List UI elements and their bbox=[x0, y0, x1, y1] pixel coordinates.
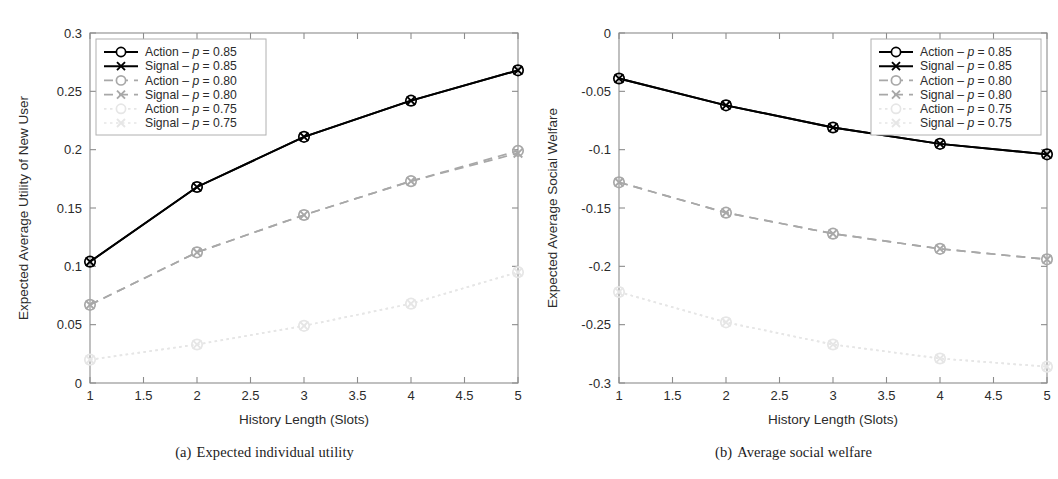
y-tick-label: 0.05 bbox=[57, 317, 82, 332]
marker-cross bbox=[300, 211, 309, 220]
y-tick-label: -0.25 bbox=[581, 317, 611, 332]
x-tick-label: 3 bbox=[829, 388, 836, 403]
series-line bbox=[90, 153, 518, 305]
legend-label: Action – p = 0.75 bbox=[920, 102, 1012, 116]
y-tick-label: -0.1 bbox=[589, 142, 611, 157]
marker-cross bbox=[193, 183, 202, 192]
caption-a-label: (a) bbox=[175, 444, 191, 460]
series-line bbox=[90, 272, 518, 360]
x-tick-label: 2 bbox=[193, 388, 200, 403]
legend-marker-circle bbox=[116, 47, 125, 56]
legend-label: Signal – p = 0.75 bbox=[145, 116, 237, 130]
x-tick-label: 2.5 bbox=[241, 388, 259, 403]
x-tick-label: 4 bbox=[407, 388, 414, 403]
marker-cross bbox=[193, 340, 202, 349]
legend-marker-circle bbox=[116, 104, 125, 113]
legend-label: Action – p = 0.75 bbox=[145, 102, 237, 116]
legend-marker-circle bbox=[891, 47, 900, 56]
x-tick-label: 4.5 bbox=[984, 388, 1002, 403]
plot-a-svg: 11.522.533.544.5500.050.10.150.20.250.3H… bbox=[0, 0, 529, 479]
x-axis-title: History Length (Slots) bbox=[768, 412, 898, 427]
y-tick-label: 0.1 bbox=[64, 259, 82, 274]
x-axis-title: History Length (Slots) bbox=[239, 412, 369, 427]
x-tick-label: 2 bbox=[722, 388, 729, 403]
marker-cross bbox=[407, 299, 416, 308]
caption-b-text: Average social welfare bbox=[737, 444, 872, 460]
legend-label: Action – p = 0.85 bbox=[145, 45, 237, 59]
y-tick-label: -0.3 bbox=[589, 376, 611, 391]
x-tick-label: 3.5 bbox=[877, 388, 895, 403]
y-tick-label: 0 bbox=[604, 26, 611, 41]
marker-cross bbox=[300, 322, 309, 331]
panel-b: 11.522.533.544.55-0.3-0.25-0.2-0.15-0.1-… bbox=[529, 0, 1058, 479]
series-line bbox=[90, 272, 518, 360]
legend-marker-circle bbox=[891, 76, 900, 85]
y-tick-label: 0.15 bbox=[57, 201, 82, 216]
y-tick-label: -0.15 bbox=[581, 201, 611, 216]
series-line bbox=[90, 151, 518, 305]
x-tick-label: 5 bbox=[1043, 388, 1050, 403]
plot-b-svg: 11.522.533.544.55-0.3-0.25-0.2-0.15-0.1-… bbox=[529, 0, 1058, 479]
x-tick-label: 1 bbox=[86, 388, 93, 403]
figure-container: 11.522.533.544.5500.050.10.150.20.250.3H… bbox=[0, 0, 1058, 479]
legend-marker-circle bbox=[116, 76, 125, 85]
legend-label: Signal – p = 0.80 bbox=[145, 88, 237, 102]
x-tick-label: 3 bbox=[300, 388, 307, 403]
caption-b: (b)Average social welfare bbox=[529, 444, 1058, 461]
legend-label: Action – p = 0.85 bbox=[920, 45, 1012, 59]
x-tick-label: 4 bbox=[936, 388, 943, 403]
y-tick-label: 0 bbox=[75, 376, 82, 391]
x-tick-label: 5 bbox=[514, 388, 521, 403]
series-line bbox=[619, 182, 1047, 259]
series-line bbox=[619, 292, 1047, 367]
caption-b-label: (b) bbox=[715, 444, 732, 460]
series-line bbox=[619, 292, 1047, 367]
legend-label: Signal – p = 0.75 bbox=[920, 116, 1012, 130]
x-tick-label: 2.5 bbox=[770, 388, 788, 403]
x-tick-label: 3.5 bbox=[348, 388, 366, 403]
y-axis-title: Expected Average Utility of New User bbox=[16, 95, 31, 320]
y-tick-label: -0.2 bbox=[589, 259, 611, 274]
caption-a-text: Expected individual utility bbox=[197, 444, 354, 460]
panel-a: 11.522.533.544.5500.050.10.150.20.250.3H… bbox=[0, 0, 529, 479]
marker-cross bbox=[300, 133, 309, 142]
y-tick-label: 0.25 bbox=[57, 84, 82, 99]
marker-cross bbox=[193, 248, 202, 257]
legend-label: Action – p = 0.80 bbox=[145, 74, 237, 88]
y-axis-title: Expected Average Social Welfare bbox=[545, 108, 560, 308]
y-tick-label: 0.3 bbox=[64, 26, 82, 41]
caption-a: (a)Expected individual utility bbox=[0, 444, 529, 461]
x-tick-label: 1.5 bbox=[134, 388, 152, 403]
y-tick-label: 0.2 bbox=[64, 142, 82, 157]
legend-label: Signal – p = 0.85 bbox=[145, 59, 237, 73]
legend-marker-circle bbox=[891, 104, 900, 113]
x-tick-label: 1 bbox=[615, 388, 622, 403]
legend-label: Action – p = 0.80 bbox=[920, 74, 1012, 88]
x-tick-label: 4.5 bbox=[455, 388, 473, 403]
legend-label: Signal – p = 0.85 bbox=[920, 59, 1012, 73]
y-tick-label: -0.05 bbox=[581, 84, 611, 99]
legend-label: Signal – p = 0.80 bbox=[920, 88, 1012, 102]
series-line bbox=[619, 182, 1047, 259]
x-tick-label: 1.5 bbox=[663, 388, 681, 403]
